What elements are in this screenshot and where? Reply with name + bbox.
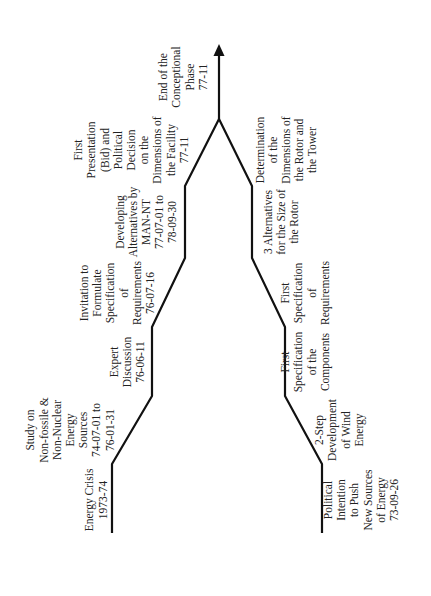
milestone-text-line: Dimensions of [280,116,292,184]
milestone-text-line: the Rotor and [293,118,305,181]
milestone-text-line: First [279,351,291,373]
milestone-label-determination-dimensions: Determinationof theDimensions ofthe Roto… [254,116,319,184]
milestone-text-line: Components [319,332,332,391]
milestone-text-line: 74-07-01 to [90,403,102,457]
milestone-label-first-spec-components: FirstSpecificationof theComponents [279,331,332,392]
milestone-text-line: of Wind [340,411,352,449]
milestone-text-line: 77-11 [178,137,190,164]
milestone-text-line: the Tower [306,127,318,173]
milestone-label-study-non-fossile: Study onNon-fossile &Non-NuclearEnergySo… [24,397,115,463]
milestone-label-first-presentation: FirstPresentation(Bid) andPoliticalDecis… [72,116,190,184]
milestone-text-line: Presentation [85,121,97,178]
milestone-text-line: Requirements [131,261,144,325]
arrow-head-icon [214,44,225,56]
milestone-label-end-conceptional-phase: End of theConceptionalPhase77-11 [157,46,209,107]
milestone-text-line: Conceptional [170,46,183,107]
milestone-text-line: of the [306,349,318,376]
milestone-text-line: to Push [348,483,360,517]
milestone-label-three-alternatives-rotor: 3 Alternativesfor the Size ofthe Rotor [262,189,300,255]
milestone-text-line: Intention [335,479,347,521]
upper-track-line [112,119,219,533]
milestone-text-line: of [118,288,130,298]
milestone-text-line: 1973-74 [97,481,109,520]
milestone-text-line: 2-Step [313,415,326,445]
milestone-text-line: Requirements [319,261,332,325]
milestone-text-line: Energy [353,413,366,446]
milestone-text-line: Development [326,398,339,461]
milestone-text-line: Specification [104,262,117,323]
milestone-text-line: Specification [292,331,305,392]
milestone-text-line: Non-Nuclear [51,400,63,460]
milestone-text-line: 77-07-01 to [153,195,165,249]
milestone-label-political-intention: PoliticalIntentionto PushNew Sourcesof E… [322,469,400,531]
milestone-text-line: Developing [114,195,127,249]
milestone-text-line: for the Size of [275,189,287,255]
milestone-text-line: First [72,139,84,161]
milestone-text-line: End of the [157,53,169,101]
milestone-text-line: New Sources [362,469,374,531]
milestone-label-first-spec-requirements: FirstSpecificationofRequirements [279,261,332,325]
milestone-text-line: of the [267,137,279,164]
milestone-text-line: Decision [125,129,137,170]
milestone-text-line: Formulate [91,269,103,316]
milestone-text-line: 78-09-30 [166,201,178,243]
milestone-text-line: Determination [254,117,266,184]
milestone-text-line: 77-11 [197,64,209,91]
milestone-text-line: Sources [77,411,89,448]
milestone-text-line: Political [112,131,124,169]
milestone-label-expert-discussion: ExpertDiscussion76-06-11 [108,337,146,388]
milestone-text-line: the Facility [165,124,178,176]
milestone-text-line: of [306,288,318,298]
milestone-text-line: the Rotor [288,200,300,243]
milestone-text-line: on the [138,136,150,164]
milestone-label-invitation-specification: Invitation toFormulateSpecificationofReq… [78,261,156,325]
milestone-text-line: Energy Crisis [83,468,96,531]
milestone-text-line: 76-01-31 [104,409,116,451]
milestone-text-line: Phase [184,64,196,91]
milestone-text-line: 76-07-16 [144,272,156,314]
milestone-text-line: 76-06-11 [134,341,146,383]
milestone-text-line: of Energy [375,477,388,523]
milestone-text-line: 73-09-26 [388,479,400,521]
milestone-label-developing-alternatives: DevelopingAlternatives byMAN-NT77-07-01 … [114,186,179,257]
milestone-text-line: Alternatives by [127,186,140,257]
milestone-text-line: MAN-NT [140,199,152,245]
milestone-text-line: (Bid) and [99,128,112,172]
milestone-label-two-step-development: 2-StepDevelopmentof WindEnergy [313,398,366,461]
milestone-label-energy-crisis: Energy Crisis1973-74 [83,468,108,531]
milestone-text-line: 3 Alternatives [262,189,274,254]
timeline-diagram: Energy Crisis1973-74Study onNon-fossile … [0,0,431,596]
lower-track-line [219,119,322,533]
milestone-text-line: Invitation to [78,264,90,321]
milestone-text-line: Specification [292,262,305,323]
milestone-text-line: First [279,282,291,304]
milestone-text-line: Study on [24,409,37,450]
milestone-text-line: Dimensions of [151,116,163,184]
milestone-text-line: Energy [64,413,77,446]
milestone-text-line: Non-fossile & [38,397,50,463]
milestone-text-line: Discussion [121,337,133,388]
milestone-text-line: Expert [108,346,121,377]
milestone-text-line: Political [322,481,334,519]
